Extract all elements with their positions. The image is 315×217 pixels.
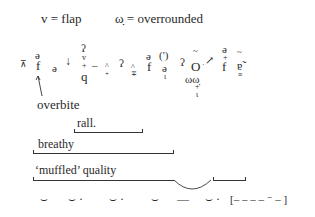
rhythm-mark: ⌣ (40, 193, 48, 205)
slur-arc-icon (0, 0, 315, 217)
rhythm-mark: ⌣ · (205, 193, 220, 205)
bracket-tick (213, 177, 214, 180)
rhythm-mark: ⌣ (151, 193, 159, 205)
rhythm-mark: — (177, 193, 189, 205)
rhythm-mark: ⌣ · (109, 193, 124, 205)
rhythm-mark: ⌣ · (68, 193, 83, 205)
short-bracket (213, 180, 246, 181)
rhythm-bracket: [– – – – ⁻ – ] (230, 194, 287, 205)
bracket-tick (245, 177, 246, 180)
